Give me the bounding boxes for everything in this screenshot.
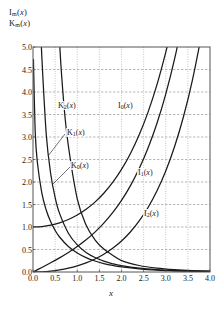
leader-line-K0: [53, 167, 70, 184]
plot-canvas: [0, 0, 222, 311]
curve-label-I2: I2(x): [143, 209, 160, 218]
curve-label-I0: I0(x): [117, 101, 134, 110]
y-tick-label: 5.0: [0, 43, 32, 52]
y-tick-label: 4.5: [0, 65, 32, 74]
y-tick-label: 3.5: [0, 110, 32, 119]
y-tick-label: 0.5: [0, 245, 32, 254]
bessel-function-chart: Im(x) Km(x) x 0.00.51.01.52.02.53.03.54.…: [0, 0, 222, 311]
y-tick-label: 2.0: [0, 178, 32, 187]
y-tick-label: 3.0: [0, 133, 32, 142]
y-tick-label: 1.5: [0, 200, 32, 209]
curve-label-K2: K2(x): [57, 101, 77, 110]
y-axis-title-line-1: Im(x): [9, 7, 30, 18]
x-tick-label: 4.0: [195, 274, 222, 283]
y-axis-title: Im(x) Km(x): [9, 7, 30, 28]
curve-K1: [41, 30, 210, 272]
y-axis-title-line-2: Km(x): [9, 18, 30, 29]
curve-label-K1: K1(x): [66, 128, 86, 137]
page-bleed-artifact: [0, 296, 222, 304]
y-tick-label: 2.5: [0, 155, 32, 164]
curve-label-I1: I1(x): [137, 168, 154, 177]
curve-I0: [33, 34, 170, 227]
y-tick-label: 4.0: [0, 88, 32, 97]
curve-label-K0: K0(x): [70, 161, 90, 170]
y-tick-label: 1.0: [0, 223, 32, 232]
